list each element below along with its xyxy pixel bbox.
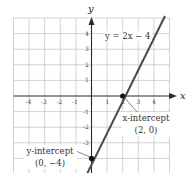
x-tick-label: -4 [26, 98, 32, 105]
y-tick-labels: 4 3 2 1 -1 -2 -3 [83, 30, 89, 146]
y-tick-label: 2 [85, 61, 89, 68]
x-tick-label: -3 [41, 98, 47, 105]
y-tick-label: -3 [83, 139, 89, 146]
equation-label: y = 2x − 4 [104, 31, 150, 41]
x-tick-label: 1 [106, 98, 110, 105]
x-intercept-coords: (2, 0) [135, 125, 158, 135]
x-tick-label: 4 [152, 98, 156, 105]
coordinate-plane: x y -4 -3 -2 -1 1 2 3 4 4 3 2 1 -1 -2 -3… [0, 0, 190, 173]
y-axis-label: y [87, 3, 94, 14]
y-tick-label: -2 [83, 123, 89, 130]
y-tick-label: 1 [85, 76, 89, 83]
x-tick-label: -2 [57, 98, 63, 105]
y-intercept-coords: (0, −4) [35, 158, 65, 168]
x-intercept-title: x-intercept [123, 113, 170, 123]
x-axis-label: x [180, 90, 186, 101]
y-tick-label: -1 [83, 108, 89, 115]
y-intercept-leader [76, 151, 90, 157]
x-tick-label: -1 [72, 98, 78, 105]
y-intercept-title: y-intercept [25, 146, 74, 156]
y-axis [89, 17, 95, 173]
x-tick-labels: -4 -3 -2 -1 1 2 3 4 [26, 98, 157, 105]
y-tick-label: 3 [85, 45, 89, 52]
x-axis-arrow-icon [169, 93, 177, 99]
x-tick-label: 3 [137, 98, 141, 105]
y-tick-label: 4 [85, 30, 89, 37]
